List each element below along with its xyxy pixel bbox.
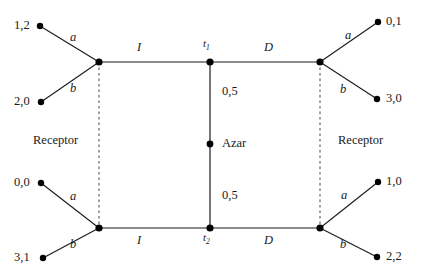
game-tree-diagram: 1,2 2,0 0,1 3,0 0,0 3,1 1,0 2,2 a b I D … xyxy=(0,0,423,279)
payoff-top-right-upper: 0,1 xyxy=(386,15,402,28)
payoff-top-left-upper: 1,2 xyxy=(14,19,30,32)
leaf-bottom-right-lower xyxy=(374,254,380,260)
action-top-D: D xyxy=(264,41,273,54)
player-label-right-receptor: Receptor xyxy=(338,134,383,147)
action-bottom-D: D xyxy=(264,234,273,247)
action-bottom-left-b: b xyxy=(70,238,76,251)
payoff-top-left-lower: 2,0 xyxy=(14,95,30,108)
action-bottom-I: I xyxy=(137,234,141,247)
payoff-bottom-left-lower: 3,1 xyxy=(14,251,30,264)
probability-upper: 0,5 xyxy=(222,85,238,98)
leaf-top-right-upper xyxy=(375,19,381,25)
edge-bottom-right-b xyxy=(320,228,377,257)
payoff-top-right-lower: 3,0 xyxy=(386,92,402,105)
node-chance-azar xyxy=(207,141,214,148)
leaf-top-right-lower xyxy=(374,96,380,102)
leaf-bottom-left-lower xyxy=(40,255,46,261)
payoff-bottom-right-upper: 1,0 xyxy=(386,175,402,188)
action-bottom-left-a: a xyxy=(70,190,76,203)
edge-bottom-right-a xyxy=(320,182,378,228)
action-top-left-a: a xyxy=(70,31,76,44)
action-top-left-b: b xyxy=(70,82,76,95)
node-t1 xyxy=(206,58,213,65)
edge-top-right-b xyxy=(320,62,377,99)
node-bottom-left-decision xyxy=(95,224,102,231)
node-bottom-right-decision xyxy=(316,224,323,231)
leaf-bottom-right-upper xyxy=(375,179,381,185)
action-bottom-right-a: a xyxy=(341,189,347,202)
action-top-right-b: b xyxy=(340,83,346,96)
leaf-top-left-lower xyxy=(38,99,44,105)
player-label-left-receptor: Receptor xyxy=(33,134,78,147)
payoff-bottom-right-lower: 2,2 xyxy=(386,250,402,263)
node-top-right-decision xyxy=(316,58,323,65)
label-node-t2-sub: 2 xyxy=(206,237,210,246)
leaf-top-left-upper xyxy=(37,23,43,29)
node-t2 xyxy=(206,224,213,231)
label-node-t1-sub: 1 xyxy=(206,43,210,52)
node-top-left-decision xyxy=(95,58,102,65)
payoff-bottom-left-upper: 0,0 xyxy=(14,176,30,189)
action-top-right-a: a xyxy=(345,29,351,42)
action-bottom-right-b: b xyxy=(340,238,346,251)
probability-lower: 0,5 xyxy=(222,189,238,202)
player-label-chance-azar: Azar xyxy=(222,137,246,150)
action-top-I: I xyxy=(137,41,141,54)
label-node-t2: t2 xyxy=(203,232,210,246)
leaf-bottom-left-upper xyxy=(38,180,44,186)
label-node-t1: t1 xyxy=(203,38,210,52)
